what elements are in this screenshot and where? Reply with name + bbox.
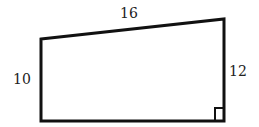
top-side-label: 16 bbox=[120, 5, 138, 21]
right-side-label: 12 bbox=[229, 63, 247, 79]
trapezoid-diagram: 16 10 12 bbox=[0, 0, 259, 127]
trapezoid-outline bbox=[41, 19, 224, 121]
left-side-label: 10 bbox=[13, 71, 31, 87]
